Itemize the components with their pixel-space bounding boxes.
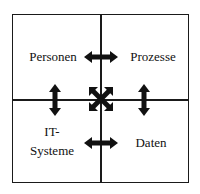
double-arrow-vertical-icon: [138, 84, 150, 116]
double-arrow-vertical-icon: [49, 84, 61, 116]
double-arrow-horizontal-icon: [84, 137, 118, 149]
label-it-systeme-line1: IT-: [22, 124, 82, 139]
label-daten: Daten: [122, 135, 180, 150]
label-personen: Personen: [22, 49, 84, 64]
double-arrow-horizontal-icon: [84, 51, 118, 63]
label-prozesse: Prozesse: [117, 49, 189, 64]
label-it-systeme: IT- Systeme: [22, 124, 82, 158]
label-it-systeme-line2: Systeme: [22, 143, 82, 158]
four-way-diagonal-arrow-icon: [89, 87, 113, 111]
